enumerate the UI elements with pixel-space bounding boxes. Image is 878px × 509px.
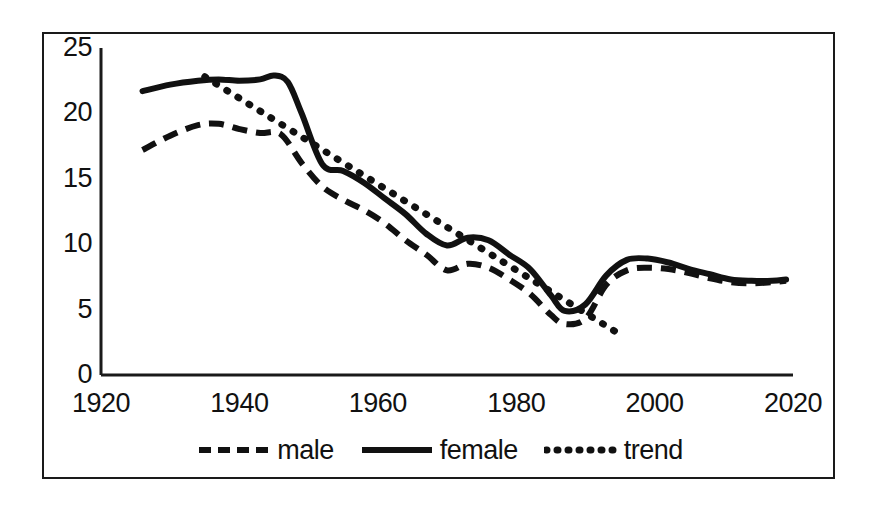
- series-line-male: [143, 123, 787, 324]
- legend-swatch-dotted-icon: [544, 442, 618, 458]
- y-tick-label: 20: [42, 99, 92, 126]
- y-tick-label: 25: [42, 34, 92, 61]
- legend-label: trend: [624, 437, 683, 464]
- legend-swatch-solid-icon: [360, 442, 434, 458]
- chart-figure: 0510152025 192019401960198020002020 male…: [0, 0, 878, 509]
- x-tick-label: 2000: [605, 390, 705, 417]
- y-tick-label: 15: [42, 165, 92, 192]
- chart-series-group: [143, 75, 787, 334]
- x-tick-label: 1980: [466, 390, 566, 417]
- y-tick-label: 10: [42, 230, 92, 257]
- legend-swatch-dashed-icon: [197, 442, 271, 458]
- legend-label: male: [277, 437, 334, 464]
- y-tick-label: 0: [42, 361, 92, 388]
- legend-entry-female[interactable]: female: [360, 437, 518, 464]
- chart-axes: [101, 48, 793, 375]
- x-tick-label: 1920: [51, 390, 151, 417]
- legend-entry-male[interactable]: male: [197, 437, 334, 464]
- legend-entry-trend[interactable]: trend: [544, 437, 683, 464]
- legend-label: female: [440, 437, 518, 464]
- x-tick-label: 1960: [328, 390, 428, 417]
- x-tick-label: 1940: [189, 390, 289, 417]
- series-line-trend: [205, 77, 620, 335]
- y-tick-label: 5: [42, 296, 92, 323]
- x-tick-label: 2020: [743, 390, 843, 417]
- chart-legend: malefemaletrend: [150, 430, 730, 470]
